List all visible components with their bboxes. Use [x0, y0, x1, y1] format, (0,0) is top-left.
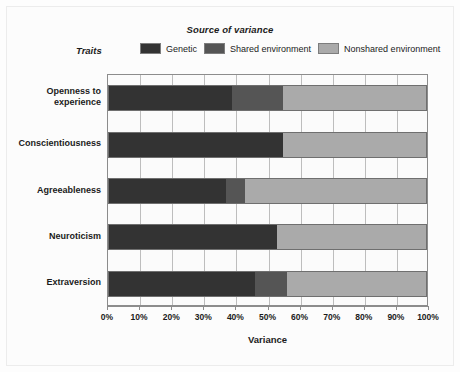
traits-axis-label: Traits [76, 45, 102, 56]
x-tick-mark [268, 306, 269, 310]
chart-legend: GeneticShared environmentNonshared envir… [140, 43, 440, 54]
bar-row [108, 132, 427, 158]
bar-segment-shared-environment[interactable] [255, 271, 287, 297]
bar-row [108, 224, 427, 250]
x-tick-mark [107, 306, 108, 310]
y-tick-label: Conscientiousness [1, 138, 101, 149]
legend-label: Genetic [166, 44, 197, 54]
y-axis-labels: Openness to experienceConscientiousnessA… [0, 74, 101, 306]
bar-segment-genetic[interactable] [108, 271, 255, 297]
legend-item-nonshared-environment[interactable]: Nonshared environment [318, 43, 440, 54]
x-tick-mark [300, 306, 301, 310]
y-tick-label: Openness to experience [1, 86, 101, 108]
legend-title: Source of variance [0, 24, 460, 35]
bar-segment-genetic[interactable] [108, 132, 283, 158]
x-tick-mark [171, 306, 172, 310]
legend-label: Shared environment [230, 44, 311, 54]
bar-segment-genetic[interactable] [108, 224, 277, 250]
x-tick-mark [139, 306, 140, 310]
y-tick-label: Extraversion [1, 277, 101, 288]
bar-row [108, 178, 427, 204]
legend-swatch-icon [204, 43, 225, 54]
bar-series-container [108, 75, 427, 305]
chart-figure: Source of variance Traits GeneticShared … [0, 0, 460, 372]
bar-segment-shared-environment[interactable] [232, 85, 283, 111]
bar-segment-nonshared-environment[interactable] [287, 271, 427, 297]
legend-swatch-icon [318, 43, 339, 54]
x-tick-mark [235, 306, 236, 310]
bar-segment-nonshared-environment[interactable] [283, 132, 427, 158]
bar-segment-nonshared-environment[interactable] [245, 178, 427, 204]
legend-swatch-icon [140, 43, 161, 54]
legend-label: Nonshared environment [344, 44, 440, 54]
bar-row [108, 85, 427, 111]
x-tick-mark [203, 306, 204, 310]
x-tick-mark [428, 306, 429, 310]
x-tick-mark [364, 306, 365, 310]
bar-segment-genetic[interactable] [108, 85, 232, 111]
plot-area [107, 74, 428, 306]
bar-segment-shared-environment[interactable] [226, 178, 245, 204]
bar-segment-nonshared-environment[interactable] [277, 224, 427, 250]
x-tick-mark [332, 306, 333, 310]
legend-item-shared-environment[interactable]: Shared environment [204, 43, 311, 54]
legend-item-genetic[interactable]: Genetic [140, 43, 197, 54]
y-tick-label: Agreeableness [1, 185, 101, 196]
x-axis-title: Variance [107, 334, 428, 345]
bar-row [108, 271, 427, 297]
bar-segment-genetic[interactable] [108, 178, 226, 204]
y-tick-label: Neuroticism [1, 231, 101, 242]
x-tick-mark [396, 306, 397, 310]
x-tick-label: 100% [408, 312, 448, 322]
bar-segment-nonshared-environment[interactable] [283, 85, 427, 111]
